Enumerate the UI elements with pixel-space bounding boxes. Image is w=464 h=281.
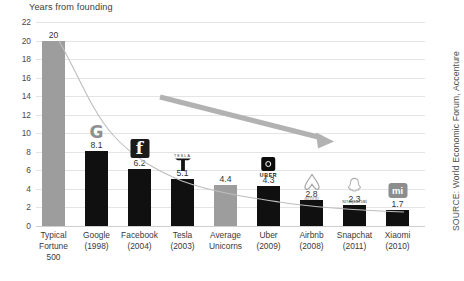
uber-logo: UBER [260,157,278,179]
xiaomi-mi-glyph: mi [388,183,407,198]
gridline [36,115,425,116]
gridline [36,22,425,23]
x-axis-label-line: Xiaomi [368,230,428,241]
google-logo: G [90,125,104,140]
bar-uber: 4.3 [257,186,280,226]
snapchat-ghost-glyph [347,177,363,193]
facebook-logo: f [130,139,149,158]
bar-value-label: 20 [49,30,59,40]
gridline [36,41,425,42]
bar-average-unicorns: 4.4 [214,185,237,226]
bar-facebook: 6.2 [128,169,151,226]
y-axis-tick-label: 10 [22,128,31,138]
y-axis-tick-label: 22 [22,17,31,27]
y-axis-tick-label: 16 [22,73,31,83]
y-axis-tick-label: 14 [22,91,31,101]
bar-snapchat: 2.3 [343,205,366,226]
x-axis-label-xiaomi: Xiaomi(2010) [368,230,428,252]
xiaomi-logo: mi [388,183,407,198]
airbnb-logo: airbnb [302,173,322,202]
y-axis-tick-label: 20 [22,36,31,46]
uber-mark-glyph [262,157,276,171]
tesla-logo: TESLA [174,154,191,176]
y-axis-title: Years from founding [29,2,113,12]
gridline [36,226,425,227]
y-axis-tick-label: 18 [22,54,31,64]
x-axis-label-line: (2010) [368,241,428,252]
bar-value-label: 4.4 [220,174,232,184]
gridline [36,96,425,97]
snapchat-logo: snapchat [342,177,367,205]
x-axis-label-line: 500 [24,252,84,263]
tesla-t-glyph [174,158,191,172]
bar-value-label: 6.2 [134,158,146,168]
source-text: SOURCE: World Economic Forum, Accenture [451,50,461,230]
y-axis-tick-label: 4 [26,184,31,194]
facebook-f-glyph: f [130,139,149,158]
bar-xiaomi: 1.7 [386,210,409,226]
airbnb-belo-glyph [302,173,322,191]
snapchat-wordmark: snapchat [342,197,367,205]
gridline [36,59,425,60]
bar-google: 8.1 [85,151,108,226]
y-axis-tick-label: 2 [26,202,31,212]
google-g-glyph: G [90,125,104,140]
y-axis-tick-label: 8 [26,147,31,157]
airbnb-wordmark: airbnb [302,195,322,202]
bar-typical-fortune-500: 20 [42,41,65,226]
bar-airbnb: 2.8 [300,200,323,226]
y-axis-tick-label: 12 [22,110,31,120]
y-axis-tick-label: 6 [26,165,31,175]
chart-container: Years from founding 0246810121416182022 … [0,0,464,281]
bar-value-label: 1.7 [392,199,404,209]
source-note: SOURCE: World Economic Forum, Accenture [449,0,463,281]
gridline [36,78,425,79]
bar-tesla: 5.1 [171,179,194,226]
uber-wordmark: UBER [260,171,278,179]
